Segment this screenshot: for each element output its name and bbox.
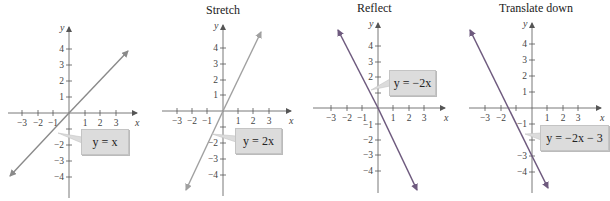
- graph-panel-identity: −3 −2 −1 1 2 3 4 3 2 1 −2 −3 −4 y x y = …: [0, 0, 150, 201]
- svg-text:1: 1: [391, 113, 396, 123]
- svg-text:−2: −2: [54, 140, 64, 150]
- svg-text:y: y: [522, 18, 528, 29]
- svg-text:−4: −4: [208, 170, 218, 180]
- function-line: [223, 32, 261, 111]
- svg-text:−3: −3: [326, 113, 336, 123]
- svg-text:3: 3: [522, 55, 527, 65]
- svg-text:1: 1: [545, 113, 550, 123]
- function-line: [69, 51, 128, 113]
- svg-text:−2: −2: [342, 113, 352, 123]
- svg-text:3: 3: [213, 59, 218, 69]
- svg-text:4: 4: [59, 44, 64, 54]
- svg-text:x: x: [134, 117, 140, 128]
- svg-text:2: 2: [98, 118, 103, 128]
- svg-text:−1: −1: [202, 116, 212, 126]
- svg-text:−2: −2: [496, 113, 506, 123]
- svg-text:−2: −2: [33, 118, 43, 128]
- svg-text:3: 3: [114, 118, 119, 128]
- equation-callout: y = 2x: [235, 128, 282, 154]
- svg-text:−3: −3: [54, 156, 64, 166]
- svg-text:3: 3: [576, 113, 581, 123]
- svg-text:−4: −4: [54, 172, 64, 182]
- graph-panel-translate-down: Translate down −3 −2 1 2 3 4 3 2 1 −1 −3…: [455, 0, 610, 201]
- svg-text:1: 1: [59, 92, 64, 102]
- svg-text:4: 4: [368, 41, 373, 51]
- svg-text:x: x: [288, 115, 294, 126]
- svg-text:1: 1: [522, 87, 527, 97]
- svg-text:4: 4: [213, 43, 218, 53]
- svg-text:−3: −3: [172, 116, 182, 126]
- coordinate-plane: −3 −2 1 2 3 4 3 2 1 −1 −3 −4 y x: [455, 0, 610, 201]
- svg-text:−3: −3: [17, 118, 27, 128]
- svg-text:2: 2: [59, 76, 64, 86]
- svg-text:2: 2: [251, 116, 256, 126]
- svg-text:3: 3: [267, 116, 272, 126]
- equation-callout: y = −2x − 3: [540, 125, 609, 151]
- equation-callout: y = −2x: [389, 70, 436, 96]
- svg-text:3: 3: [422, 113, 427, 123]
- svg-text:2: 2: [522, 71, 527, 81]
- svg-text:3: 3: [59, 60, 64, 70]
- svg-text:2: 2: [213, 75, 218, 85]
- svg-text:1: 1: [83, 118, 88, 128]
- coordinate-plane: −3 −2 −1 1 2 3 4 3 2 1 −2 −3 −4 y x: [0, 0, 150, 201]
- svg-text:4: 4: [522, 39, 527, 49]
- graph-panel-reflect: Reflect −3 −2 −1 1 2 3 4 3 2 −1 −2 −3 −4…: [305, 0, 455, 201]
- svg-text:y: y: [213, 20, 219, 31]
- svg-text:2: 2: [407, 113, 412, 123]
- coordinate-plane: −3 −2 −1 1 2 3 4 3 2 −1 −2 −3 −4 y x: [305, 0, 455, 201]
- svg-text:−2: −2: [187, 116, 197, 126]
- coordinate-plane: −3 −2 −1 1 2 3 4 3 2 1 −2 −3 −4 y x: [155, 0, 305, 201]
- svg-text:2: 2: [561, 113, 566, 123]
- svg-text:1: 1: [236, 116, 241, 126]
- svg-text:3: 3: [368, 57, 373, 67]
- graph-panel-stretch: Stretch −3 −2 −1 1 2 3 4 3 2 1 −2 −3 −4 …: [155, 0, 305, 201]
- svg-text:2: 2: [368, 72, 373, 82]
- svg-text:−4: −4: [363, 166, 373, 176]
- svg-text:−4: −4: [517, 167, 527, 177]
- svg-text:−3: −3: [480, 113, 490, 123]
- svg-text:x: x: [443, 112, 449, 123]
- svg-text:−3: −3: [363, 150, 373, 160]
- svg-text:x: x: [599, 112, 605, 123]
- svg-text:−3: −3: [517, 151, 527, 161]
- svg-text:−2: −2: [363, 135, 373, 145]
- svg-text:−3: −3: [208, 154, 218, 164]
- svg-text:y: y: [59, 22, 65, 33]
- svg-text:−1: −1: [363, 120, 373, 130]
- svg-text:1: 1: [213, 90, 218, 100]
- equation-callout: y = x: [81, 129, 129, 155]
- svg-text:y: y: [368, 18, 374, 29]
